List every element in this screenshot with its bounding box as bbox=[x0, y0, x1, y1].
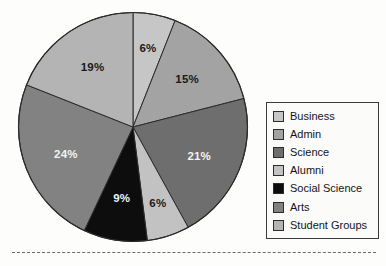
pie-slice-value-label: 21% bbox=[187, 150, 211, 162]
pie-slice-value-label: 24% bbox=[54, 148, 78, 160]
pie-slice-value-label: 9% bbox=[113, 192, 130, 204]
legend-item-alumni[interactable]: Alumni bbox=[273, 162, 374, 180]
legend-item-arts[interactable]: Arts bbox=[273, 198, 374, 216]
legend-swatch-science bbox=[273, 147, 284, 158]
legend-label-science: Science bbox=[290, 147, 329, 158]
legend-label-admin: Admin bbox=[290, 129, 321, 140]
pie-chart: 6%15%21%6%9%24%19% bbox=[17, 11, 249, 243]
legend-label-arts: Arts bbox=[290, 202, 310, 213]
pie-chart-figure: 6%15%21%6%9%24%19% Business Admin Scienc… bbox=[0, 0, 386, 266]
legend-swatch-social-science bbox=[273, 183, 284, 194]
legend-swatch-alumni bbox=[273, 165, 284, 176]
pie-svg: 6%15%21%6%9%24%19% bbox=[17, 11, 249, 243]
pie-slice-value-label: 6% bbox=[139, 42, 156, 54]
legend-item-admin[interactable]: Admin bbox=[273, 125, 374, 143]
legend-item-social-science[interactable]: Social Science bbox=[273, 180, 374, 198]
legend-swatch-arts bbox=[273, 202, 284, 213]
pie-slice-value-label: 15% bbox=[175, 73, 199, 85]
dashed-divider bbox=[12, 252, 376, 253]
legend-swatch-admin bbox=[273, 129, 284, 140]
legend-item-student-groups[interactable]: Student Groups bbox=[273, 216, 374, 234]
legend-swatch-business bbox=[273, 111, 284, 122]
legend-label-alumni: Alumni bbox=[290, 165, 324, 176]
legend-label-business: Business bbox=[290, 111, 335, 122]
pie-slice-value-label: 19% bbox=[81, 61, 105, 73]
legend-item-science[interactable]: Science bbox=[273, 143, 374, 161]
chart-legend: Business Admin Science Alumni Social Sci… bbox=[266, 102, 379, 239]
pie-slice-value-label: 6% bbox=[149, 197, 166, 209]
legend-label-social-science: Social Science bbox=[290, 183, 362, 194]
pie-slices-group bbox=[19, 13, 248, 242]
legend-label-student-groups: Student Groups bbox=[290, 220, 367, 231]
legend-swatch-student-groups bbox=[273, 220, 284, 231]
legend-item-business[interactable]: Business bbox=[273, 107, 374, 125]
